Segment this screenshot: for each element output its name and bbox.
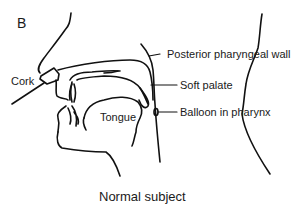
figure-caption: Normal subject — [99, 190, 186, 204]
tongue-front-curl — [83, 118, 86, 130]
panel-letter: B — [17, 16, 26, 30]
posterior-pharyngeal-wall-line — [141, 44, 160, 162]
lower-lip-line — [57, 106, 66, 132]
posterior-pharyngeal-wall-leader — [149, 54, 160, 56]
sagittal-head-diagram: B Cork Posterior pharyngeal wall Soft pa… — [0, 0, 291, 210]
palate-lower-line — [77, 76, 148, 104]
lower-teeth — [68, 106, 79, 126]
soft-palate-label: Soft palate — [180, 79, 233, 91]
posterior-pharyngeal-wall-label: Posterior pharyngeal wall — [167, 48, 291, 60]
neck-back-line — [242, 14, 270, 174]
balloon-in-pharynx-label: Balloon in pharynx — [180, 106, 271, 118]
tongue-label: Tongue — [100, 111, 136, 123]
nasal-cavity-line — [58, 60, 153, 100]
anatomy-line-drawing — [0, 0, 291, 210]
cork-label: Cork — [11, 75, 34, 87]
chin-jaw-line — [57, 132, 120, 176]
upper-lip-line — [56, 80, 68, 100]
nose-profile-line — [38, 13, 71, 73]
